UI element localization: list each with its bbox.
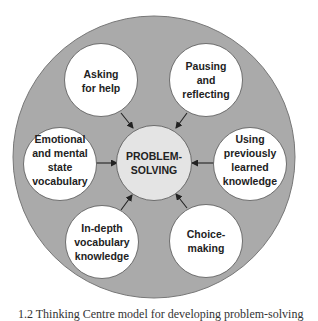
node-in-depth-vocabulary-knowledge: In-depth vocabulary knowledge [66, 206, 139, 279]
center-label-line-2: SOLVING [131, 164, 177, 176]
node-label-line: Asking [83, 68, 118, 80]
node-using-previously-learned-knowledge: Using previously learned knowledge [214, 128, 287, 201]
node-label-line: knowledge [223, 175, 277, 187]
node-label-line: Pausing [186, 60, 227, 72]
node-label-line: previously [224, 147, 277, 159]
node-label-line: and [197, 74, 216, 86]
node-label-line: Choice- [187, 228, 226, 240]
node-label-line: In-depth [81, 222, 122, 234]
node-label-line: reflecting [182, 88, 229, 100]
figure-caption: 1.2 Thinking Centre model for developing… [18, 307, 318, 321]
node-label-line: and mental [32, 147, 88, 159]
node-label-line: state [48, 161, 73, 173]
node-choice-making: Choice- making [170, 205, 243, 278]
node-emotional-and-mental-state-vocabulary: Emotional and mental state vocabulary [24, 128, 97, 201]
node-label-line: vocabulary [74, 236, 130, 248]
node-pausing-and-reflecting: Pausing and reflecting [170, 44, 243, 117]
node-label-line: learned [231, 161, 268, 173]
center-label-line-1: PROBLEM- [126, 150, 183, 162]
node-label-line: Emotional [35, 133, 86, 145]
node-label-line: knowledge [75, 250, 129, 262]
center-node-problem-solving: PROBLEM- SOLVING [117, 126, 192, 201]
node-label-line: Using [235, 133, 264, 145]
node-label-line: making [188, 242, 225, 254]
node-label-line: vocabulary [32, 175, 88, 187]
node-asking-for-help: Asking for help [65, 44, 138, 117]
node-label-line: for help [82, 82, 121, 94]
